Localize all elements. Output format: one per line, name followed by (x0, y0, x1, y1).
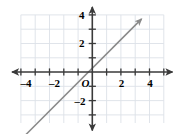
x-tick-label-neg2: –2 (48, 77, 61, 89)
x-tick-label-pos4: 4 (147, 77, 153, 89)
coordinate-plane-figure: –4 –2 2 4 4 2 –2 O (0, 0, 184, 134)
y-tick-label-pos4: 4 (79, 9, 85, 21)
x-tick-label-neg4: –4 (20, 77, 33, 89)
y-tick-label-pos2: 2 (79, 37, 85, 49)
x-tick-label-pos2: 2 (119, 77, 125, 89)
graph-canvas: –4 –2 2 4 4 2 –2 O (0, 0, 184, 134)
y-tick-label-neg2: –2 (74, 95, 87, 107)
origin-label: O (82, 77, 90, 89)
